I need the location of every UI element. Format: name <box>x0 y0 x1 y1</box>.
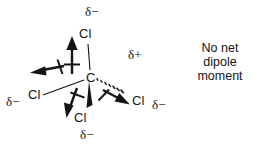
dipole-arrow-down-right <box>99 90 131 105</box>
caption-line-2: dipole <box>182 55 258 69</box>
charge-label-chlorine-top: δ− <box>85 5 98 18</box>
bond-c-cl-top <box>88 44 90 70</box>
caption-line-1: No net <box>182 41 258 55</box>
charge-label-chlorine-right: δ− <box>152 98 165 111</box>
caption-no-net-dipole: No net dipole moment <box>182 41 258 83</box>
bond-c-cl-left <box>43 80 84 95</box>
atom-label-chlorine-right: Cl <box>132 94 144 107</box>
atom-label-carbon: C <box>86 71 95 84</box>
bond-c-cl-right-hashed <box>97 78 124 93</box>
dipole-arrow-up <box>64 36 80 74</box>
charge-label-chlorine-bottom: δ− <box>80 128 93 141</box>
dipole-arrow-left <box>30 60 64 76</box>
atom-label-chlorine-bottom: Cl <box>74 111 86 124</box>
charge-label-chlorine-left: δ− <box>6 95 19 108</box>
bond-c-cl-bottom-wedge <box>87 81 93 108</box>
caption-line-3: moment <box>182 69 258 83</box>
charge-label-carbon: δ+ <box>128 48 141 61</box>
atom-label-chlorine-left: Cl <box>28 88 40 101</box>
atom-label-chlorine-top: Cl <box>79 27 91 40</box>
ccl4-dipole-figure: C δ+ Cl δ− Cl δ− Cl δ− Cl δ− No net dipo… <box>0 0 259 148</box>
